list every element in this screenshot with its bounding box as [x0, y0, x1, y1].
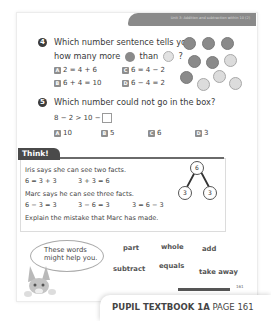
answer-box[interactable] — [102, 113, 112, 123]
think-divider — [56, 157, 224, 159]
bubble-line-2: might help you. — [44, 254, 97, 262]
q5-option-b[interactable]: B5 — [101, 129, 114, 137]
option-text: 6 — [157, 129, 161, 137]
question-number-5: 5 — [38, 98, 47, 107]
q4-text-middle: than — [140, 51, 159, 61]
q4-option-a[interactable]: A2 = 4 + 6 — [54, 66, 97, 74]
part-whole-part-1: 3 — [178, 186, 192, 200]
word-subtract: subtract — [113, 265, 145, 273]
footer-text: PUPIL TEXTBOOK 1A PAGE 161 — [112, 302, 254, 312]
speech-bubble-text: These words might help you. — [44, 246, 97, 262]
think-heading: Think! — [18, 148, 60, 160]
unit-title: Unit 3: Addition and subtraction within … — [171, 16, 250, 20]
word-add: add — [202, 245, 216, 253]
iris-fact-1: 6 = 3 + 3 — [25, 177, 57, 185]
dark-counter-icon — [125, 52, 135, 62]
q5-equation: 8 − 2 > 10 − — [54, 113, 112, 123]
book-title: PUPIL TEXTBOOK 1A — [112, 302, 210, 312]
marc-fact-3: 3 = 6 − 3 — [132, 201, 164, 209]
option-text: 5 — [110, 129, 114, 137]
marc-fact-1: 6 − 3 = 3 — [25, 201, 57, 209]
q5-text: Which number could not go in the box? — [54, 97, 215, 107]
q5-option-a[interactable]: A10 — [54, 129, 72, 137]
dark-counter — [183, 37, 196, 50]
word-equals: equals — [159, 262, 184, 270]
word-part: part — [123, 244, 139, 252]
iris-fact-2: 3 + 3 = 6 — [78, 177, 110, 185]
link-right — [201, 172, 209, 187]
q4-text-before: how many more — [54, 51, 120, 61]
bubble-line-1: These words — [44, 246, 97, 254]
q5-option-d[interactable]: D3 — [195, 129, 208, 137]
q4-text-line1: Which number sentence tells you — [54, 37, 191, 47]
option-letter-badge: B — [54, 80, 61, 87]
option-letter-badge: C — [148, 130, 155, 137]
option-letter-badge: D — [195, 130, 202, 137]
footer-label: PUPIL TEXTBOOK 1A PAGE 161 — [100, 295, 271, 321]
q4-option-b[interactable]: B6 + 4 = 10 — [54, 79, 101, 87]
option-letter-badge: C — [122, 67, 129, 74]
page-number: 161 — [236, 284, 244, 289]
dark-counter — [221, 37, 234, 50]
light-counter — [224, 54, 237, 67]
option-letter-badge: D — [122, 80, 129, 87]
page-label: PAGE 161 — [213, 302, 254, 312]
q4-text-line2: how many more than ? — [54, 51, 183, 62]
explain-prompt: Explain the mistake that Marc has made. — [25, 214, 158, 222]
light-counter — [229, 77, 242, 90]
light-counter — [197, 78, 210, 91]
part-whole-part-2: 3 — [203, 186, 217, 200]
option-text: 6 = 4 − 2 — [131, 66, 165, 74]
dark-counter — [202, 37, 215, 50]
option-text: 10 — [63, 129, 72, 137]
iris-statement: Iris says she can see two facts. — [25, 166, 126, 174]
q4-option-d[interactable]: D6 − 4 = 2 — [122, 79, 165, 87]
option-letter-badge: B — [101, 130, 108, 137]
marc-statement: Marc says he can see three facts. — [25, 190, 134, 198]
marc-fact-2: 3 − 6 = 3 — [78, 201, 110, 209]
page-footer-bar — [178, 288, 230, 291]
part-whole-whole: 6 — [190, 161, 204, 175]
option-text: 2 = 4 + 6 — [63, 66, 97, 74]
dark-counter — [206, 56, 219, 69]
word-whole: whole — [161, 243, 184, 251]
unit-header-bar: Unit 3: Addition and subtraction within … — [128, 13, 256, 26]
option-text: 6 + 4 = 10 — [63, 79, 101, 87]
option-text: 3 — [204, 129, 208, 137]
q4-option-c[interactable]: C6 = 4 − 2 — [122, 66, 165, 74]
light-counter-icon — [163, 51, 174, 62]
q4-text-after: ? — [178, 51, 182, 61]
light-counter — [213, 70, 226, 83]
dark-counter — [188, 55, 201, 68]
option-letter-badge: A — [54, 67, 61, 74]
question-number-4: 4 — [38, 38, 47, 47]
equation-text: 8 − 2 > 10 − — [54, 114, 101, 122]
fox-character-icon — [24, 262, 64, 300]
option-letter-badge: A — [54, 130, 61, 137]
option-text: 6 − 4 = 2 — [131, 79, 165, 87]
dark-counter — [180, 71, 193, 84]
q5-option-c[interactable]: C6 — [148, 129, 161, 137]
word-take-away: take away — [199, 268, 238, 276]
